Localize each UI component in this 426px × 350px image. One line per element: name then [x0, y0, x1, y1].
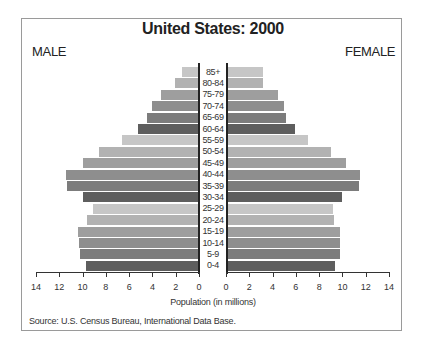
male-bar-10-14	[79, 238, 199, 248]
male-bar-75-79	[161, 90, 199, 100]
x-axis-label: Population (in millions)	[0, 297, 426, 307]
male-tick-label: 2	[166, 282, 186, 292]
age-group-label: 45-49	[200, 158, 226, 169]
female-bar-0-4	[227, 261, 335, 271]
age-group-label: 10-14	[200, 238, 226, 249]
age-group-label: 35-39	[200, 181, 226, 192]
tick-mark	[59, 272, 60, 277]
age-group-label: 0-4	[200, 260, 226, 271]
age-group-label: 5-9	[200, 249, 226, 260]
chart-title: United States: 2000	[0, 20, 426, 38]
tick-mark	[389, 272, 390, 277]
tick-mark	[36, 272, 37, 277]
female-tick-label: 4	[263, 282, 283, 292]
age-group-label: 85+	[200, 67, 226, 78]
male-bar-65-69	[147, 113, 199, 123]
tick-mark	[129, 272, 130, 277]
tick-mark	[106, 272, 107, 277]
tick-mark	[296, 272, 297, 277]
male-tick-label: 14	[26, 282, 46, 292]
female-bar-85+	[227, 67, 263, 77]
female-tick-label: 8	[309, 282, 329, 292]
source-note: Source: U.S. Census Bureau, Internationa…	[29, 316, 236, 326]
tick-mark	[226, 272, 227, 277]
female-bar-75-79	[227, 90, 278, 100]
age-group-label: 20-24	[200, 215, 226, 226]
male-bar-40-44	[66, 170, 199, 180]
left-center-axis	[198, 63, 200, 274]
male-bar-0-4	[86, 261, 199, 271]
tick-mark	[319, 272, 320, 277]
female-tick-label: 12	[356, 282, 376, 292]
male-bar-30-34	[83, 192, 199, 202]
male-tick-label: 4	[142, 282, 162, 292]
tick-mark	[273, 272, 274, 277]
female-tick-label: 14	[379, 282, 399, 292]
female-bar-5-9	[227, 249, 340, 259]
female-bar-25-29	[227, 204, 333, 214]
age-group-label: 15-19	[200, 226, 226, 237]
male-tick-label: 8	[96, 282, 116, 292]
female-bar-20-24	[227, 215, 334, 225]
male-bar-55-59	[122, 135, 199, 145]
male-bar-60-64	[138, 124, 199, 134]
age-group-label: 25-29	[200, 203, 226, 214]
tick-mark	[366, 272, 367, 277]
tick-mark	[342, 272, 343, 277]
female-bar-40-44	[227, 170, 360, 180]
male-bar-5-9	[80, 249, 199, 259]
female-bar-60-64	[227, 124, 295, 134]
male-bar-20-24	[87, 215, 199, 225]
female-bar-55-59	[227, 135, 308, 145]
male-tick-label: 0	[189, 282, 209, 292]
male-bar-45-49	[83, 158, 199, 168]
male-tick-label: 6	[119, 282, 139, 292]
female-bar-45-49	[227, 158, 346, 168]
tick-mark	[83, 272, 84, 277]
age-group-label: 55-59	[200, 135, 226, 146]
tick-mark	[249, 272, 250, 277]
age-group-label: 40-44	[200, 169, 226, 180]
male-bar-25-29	[93, 204, 199, 214]
age-group-label: 30-34	[200, 192, 226, 203]
age-group-label: 50-54	[200, 146, 226, 157]
male-bar-80-84	[175, 78, 199, 88]
female-tick-label: 0	[216, 282, 236, 292]
female-bar-30-34	[227, 192, 342, 202]
female-bar-35-39	[227, 181, 359, 191]
tick-mark	[199, 272, 200, 277]
female-bar-10-14	[227, 238, 340, 248]
tick-mark	[176, 272, 177, 277]
age-group-label: 70-74	[200, 101, 226, 112]
female-bar-70-74	[227, 101, 284, 111]
male-bar-35-39	[67, 181, 199, 191]
female-tick-label: 2	[239, 282, 259, 292]
age-group-label: 75-79	[200, 89, 226, 100]
female-bar-15-19	[227, 227, 340, 237]
male-bar-15-19	[78, 227, 199, 237]
female-bar-50-54	[227, 147, 331, 157]
male-bar-70-74	[152, 101, 199, 111]
age-group-label: 65-69	[200, 112, 226, 123]
male-label: MALE	[32, 44, 66, 59]
male-tick-label: 10	[73, 282, 93, 292]
male-tick-label: 12	[49, 282, 69, 292]
tick-mark	[152, 272, 153, 277]
age-group-label: 60-64	[200, 124, 226, 135]
age-group-label: 80-84	[200, 78, 226, 89]
male-bar-85+	[182, 67, 199, 77]
male-bar-50-54	[99, 147, 199, 157]
female-bar-65-69	[227, 113, 286, 123]
right-center-axis	[226, 63, 228, 274]
female-tick-label: 6	[286, 282, 306, 292]
female-tick-label: 10	[332, 282, 352, 292]
female-label: FEMALE	[345, 44, 395, 59]
female-bar-80-84	[227, 78, 263, 88]
